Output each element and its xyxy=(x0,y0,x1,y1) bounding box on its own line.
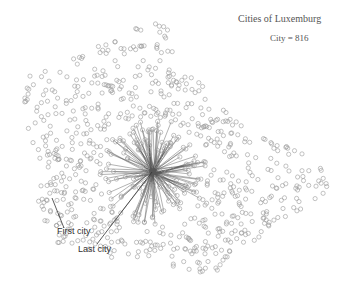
city-count-label: City = 816 xyxy=(270,33,309,43)
route-edges xyxy=(100,121,205,224)
city-points xyxy=(23,22,329,274)
chart-title: Cities of Luxemburg xyxy=(238,13,321,24)
tsp-scatter-plot xyxy=(0,0,345,292)
last-city-annotation: Last city xyxy=(78,244,111,254)
first-city-annotation: First city xyxy=(57,226,91,236)
